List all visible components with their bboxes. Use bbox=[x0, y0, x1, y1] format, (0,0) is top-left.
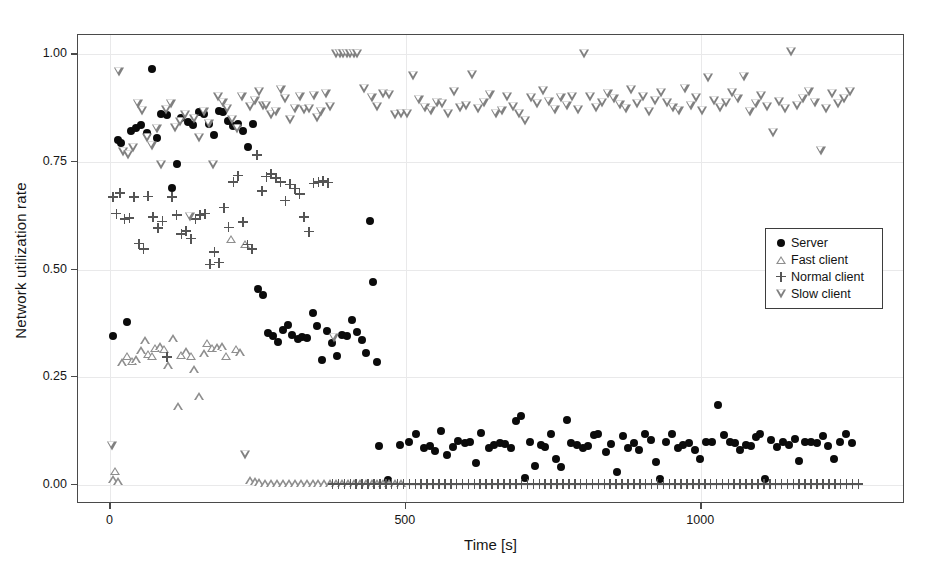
data-point bbox=[254, 88, 264, 97]
data-point bbox=[607, 440, 615, 448]
data-point bbox=[656, 89, 666, 98]
data-point bbox=[308, 479, 318, 487]
data-point bbox=[302, 479, 312, 487]
data-point bbox=[756, 91, 766, 100]
data-point bbox=[472, 459, 480, 467]
data-point bbox=[567, 439, 575, 447]
data-point bbox=[194, 133, 204, 142]
filled-circle-icon bbox=[777, 239, 785, 247]
data-point bbox=[426, 107, 436, 116]
data-point bbox=[602, 448, 610, 456]
data-point bbox=[833, 100, 843, 109]
data-point bbox=[276, 85, 286, 94]
data-point bbox=[449, 443, 457, 451]
data-point bbox=[207, 344, 217, 352]
data-point bbox=[163, 361, 173, 369]
data-point bbox=[108, 475, 118, 483]
data-point bbox=[367, 94, 377, 103]
legend-marker-triangle-up-icon bbox=[771, 251, 791, 268]
data-point bbox=[372, 479, 382, 487]
data-point bbox=[303, 334, 311, 342]
data-point bbox=[526, 94, 536, 103]
data-point bbox=[544, 97, 554, 106]
legend-item-normal-client: Normal client bbox=[771, 268, 875, 285]
data-point bbox=[414, 95, 424, 104]
data-point bbox=[638, 92, 648, 101]
data-point bbox=[739, 72, 749, 81]
x-tick-mark bbox=[109, 503, 110, 509]
data-point bbox=[477, 429, 485, 437]
data-point bbox=[312, 114, 322, 123]
x-axis-label: Time [s] bbox=[77, 536, 904, 553]
data-point bbox=[685, 439, 693, 447]
data-point bbox=[239, 127, 247, 135]
data-point bbox=[619, 432, 627, 440]
data-point bbox=[731, 439, 739, 447]
data-point bbox=[258, 101, 268, 110]
data-point bbox=[362, 349, 370, 357]
legend-label: Normal client bbox=[791, 270, 864, 284]
data-point bbox=[284, 321, 292, 329]
data-point bbox=[271, 108, 281, 117]
data-point bbox=[222, 105, 232, 114]
data-point bbox=[309, 91, 319, 100]
data-point bbox=[155, 342, 165, 350]
data-point bbox=[514, 109, 524, 118]
data-point bbox=[742, 441, 750, 449]
data-point bbox=[761, 475, 769, 483]
legend-label: Server bbox=[791, 236, 828, 250]
data-point bbox=[443, 451, 451, 459]
data-point bbox=[245, 102, 255, 111]
data-point bbox=[118, 148, 128, 157]
data-point bbox=[136, 346, 146, 354]
data-point bbox=[497, 107, 507, 116]
data-point bbox=[240, 240, 250, 248]
data-point bbox=[328, 339, 336, 347]
data-point bbox=[114, 136, 122, 144]
data-point bbox=[304, 104, 314, 113]
data-point bbox=[412, 430, 420, 438]
data-point bbox=[537, 441, 545, 449]
data-point bbox=[205, 120, 213, 128]
data-point bbox=[591, 103, 601, 112]
data-point bbox=[378, 89, 388, 98]
data-point bbox=[590, 431, 598, 439]
data-point bbox=[195, 108, 203, 116]
data-point bbox=[556, 94, 566, 103]
x-tick-mark bbox=[405, 503, 406, 509]
data-point bbox=[284, 479, 294, 487]
data-point bbox=[745, 108, 755, 117]
data-point bbox=[147, 352, 157, 360]
data-point bbox=[127, 357, 137, 365]
gridline-horizontal bbox=[78, 54, 903, 55]
data-point bbox=[358, 336, 366, 344]
data-point bbox=[696, 455, 704, 463]
data-point bbox=[249, 120, 257, 128]
data-point bbox=[652, 458, 660, 466]
legend-marker-plus-icon bbox=[771, 268, 791, 285]
data-point bbox=[384, 90, 394, 99]
data-point bbox=[573, 441, 581, 449]
data-point bbox=[736, 446, 744, 454]
data-point bbox=[662, 98, 672, 107]
data-point bbox=[137, 121, 145, 129]
data-point bbox=[662, 438, 670, 446]
data-point bbox=[200, 110, 208, 118]
data-point bbox=[278, 479, 288, 487]
data-point bbox=[333, 352, 341, 360]
data-point bbox=[801, 438, 809, 446]
data-point bbox=[349, 479, 359, 487]
data-point bbox=[721, 98, 731, 107]
data-point bbox=[237, 92, 247, 101]
data-point bbox=[517, 412, 525, 420]
data-point bbox=[175, 118, 185, 127]
data-point bbox=[626, 85, 636, 94]
y-axis-label: Network utilization rate bbox=[12, 182, 29, 339]
data-point bbox=[443, 109, 453, 118]
data-point bbox=[250, 96, 260, 105]
data-point bbox=[396, 479, 406, 487]
data-point bbox=[140, 336, 150, 344]
data-point bbox=[168, 184, 176, 192]
data-point bbox=[274, 338, 282, 346]
data-point bbox=[816, 146, 826, 155]
